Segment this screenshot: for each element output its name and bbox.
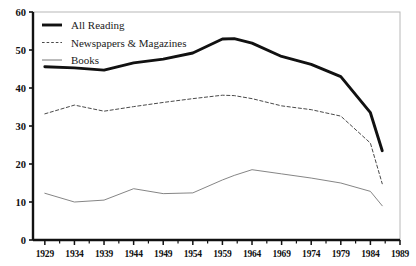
y-tick-label: 0 [21, 235, 26, 246]
legend-label-2: Books [71, 54, 99, 66]
legend-label-1: Newspapers & Magazines [71, 37, 186, 49]
x-tick-label: 1984 [361, 249, 380, 259]
x-tick-label: 1949 [154, 249, 173, 259]
line-chart: 0102030405060 19291934193919441949195419… [0, 0, 416, 266]
x-tick-label: 1954 [184, 249, 203, 259]
x-tick-label: 1934 [65, 249, 84, 259]
x-tick-label: 1974 [302, 249, 321, 259]
y-tick-label: 20 [16, 159, 27, 170]
x-tick-label: 1979 [332, 249, 351, 259]
chart-container: 0102030405060 19291934193919441949195419… [0, 0, 416, 266]
x-tick-label: 1969 [273, 249, 292, 259]
y-tick-label: 30 [16, 121, 27, 132]
y-tick-label: 40 [16, 83, 27, 94]
y-tick-label: 50 [16, 45, 27, 56]
legend-label-0: All Reading [71, 19, 125, 31]
x-tick-label: 1959 [213, 249, 232, 259]
x-tick-label: 1944 [125, 249, 144, 259]
x-tick-label: 1929 [36, 249, 55, 259]
y-axis: 0102030405060 [16, 7, 34, 246]
x-tick-label: 1939 [95, 249, 114, 259]
x-tick-label: 1989 [391, 249, 410, 259]
y-tick-label: 60 [16, 7, 27, 18]
x-tick-label: 1964 [243, 249, 262, 259]
y-tick-label: 10 [16, 197, 27, 208]
x-axis: 1929193419391944194919541959196419691974… [33, 240, 410, 259]
